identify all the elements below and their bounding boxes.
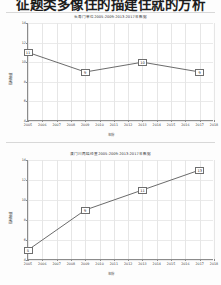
data-point-marker[interactable]: 9 bbox=[195, 69, 204, 76]
x-tick-label: 2012 bbox=[124, 262, 132, 266]
y-tick-label: 14 bbox=[22, 158, 26, 162]
x-tick-label: 2008 bbox=[67, 262, 75, 266]
data-point-marker[interactable]: 13 bbox=[195, 167, 204, 174]
x-tick-label: 2015 bbox=[167, 262, 175, 266]
chart-2-x-axis-label: 年份 bbox=[0, 272, 221, 277]
chart-2-y-axis-label: 指标数值 bbox=[9, 212, 14, 224]
x-tick-label: 2014 bbox=[153, 123, 161, 127]
data-point-marker[interactable]: 5 bbox=[24, 247, 33, 254]
x-tick-label: 2018 bbox=[210, 123, 218, 127]
x-tick-label: 2011 bbox=[110, 123, 118, 127]
y-tick-label: 12 bbox=[22, 41, 26, 45]
chart-1-subtitle: 长寿门单位2005-2009-2013-2017年数据 bbox=[0, 15, 221, 20]
document-page: 征题类多像住的描建住就的方析 长寿门单位2005-2009-2013-2017年… bbox=[0, 0, 221, 285]
chart-1-x-axis-label: 年份 bbox=[0, 133, 221, 138]
data-point-marker[interactable]: 10 bbox=[138, 59, 147, 66]
y-tick-label: 8 bbox=[24, 80, 26, 84]
x-tick-label: 2007 bbox=[52, 123, 60, 127]
chart-1-plot-area: 4681012142005200620072008200920102011201… bbox=[27, 23, 213, 121]
chart-2-plot-area: 4681012142005200620072008200920102011201… bbox=[27, 160, 213, 260]
y-tick-label: 14 bbox=[22, 21, 26, 25]
x-tick-label: 2007 bbox=[52, 262, 60, 266]
x-tick-label: 2005 bbox=[24, 262, 32, 266]
chart-block-2: 澳门川两结经查2005-2009-2013-2017年数据 4681012142… bbox=[0, 148, 221, 285]
chart-series-line bbox=[28, 23, 214, 121]
x-tick-label: 2013 bbox=[138, 262, 146, 266]
y-tick-label: 6 bbox=[24, 238, 26, 242]
x-tick-label: 2015 bbox=[167, 123, 175, 127]
x-tick-label: 2014 bbox=[153, 262, 161, 266]
x-tick-label: 2018 bbox=[210, 262, 218, 266]
y-tick-label: 10 bbox=[22, 60, 26, 64]
chart-1-y-axis-label: 指标数值 bbox=[9, 73, 14, 85]
x-tick-label: 2009 bbox=[81, 123, 89, 127]
x-tick-label: 2010 bbox=[95, 262, 103, 266]
x-tick-label: 2008 bbox=[67, 123, 75, 127]
data-point-marker[interactable]: 11 bbox=[24, 49, 33, 56]
x-tick-label: 2006 bbox=[38, 262, 46, 266]
data-point-marker[interactable]: 9 bbox=[81, 207, 90, 214]
x-tick-label: 2006 bbox=[38, 123, 46, 127]
data-point-marker[interactable]: 9 bbox=[81, 69, 90, 76]
x-tick-label: 2016 bbox=[181, 123, 189, 127]
x-tick-label: 2017 bbox=[195, 262, 203, 266]
chart-series-line bbox=[28, 160, 214, 260]
x-tick-label: 2005 bbox=[24, 123, 32, 127]
gridline-vertical bbox=[214, 23, 215, 120]
y-tick-label: 6 bbox=[24, 99, 26, 103]
x-tick-label: 2011 bbox=[110, 262, 118, 266]
gridline-vertical bbox=[214, 160, 215, 259]
x-tick-label: 2017 bbox=[195, 123, 203, 127]
chart-divider bbox=[6, 142, 215, 143]
x-tick-label: 2009 bbox=[81, 262, 89, 266]
y-tick-label: 8 bbox=[24, 218, 26, 222]
y-tick-label: 10 bbox=[22, 198, 26, 202]
x-tick-label: 2010 bbox=[95, 123, 103, 127]
y-tick-label: 12 bbox=[22, 178, 26, 182]
chart-block-1: 长寿门单位2005-2009-2013-2017年数据 468101214200… bbox=[0, 13, 221, 141]
data-point-marker[interactable]: 11 bbox=[138, 187, 147, 194]
x-tick-label: 2016 bbox=[181, 262, 189, 266]
x-tick-label: 2012 bbox=[124, 123, 132, 127]
x-tick-label: 2013 bbox=[138, 123, 146, 127]
page-title: 征题类多像住的描建住就的方析 bbox=[0, 0, 221, 12]
chart-2-subtitle: 澳门川两结经查2005-2009-2013-2017年数据 bbox=[0, 152, 221, 157]
